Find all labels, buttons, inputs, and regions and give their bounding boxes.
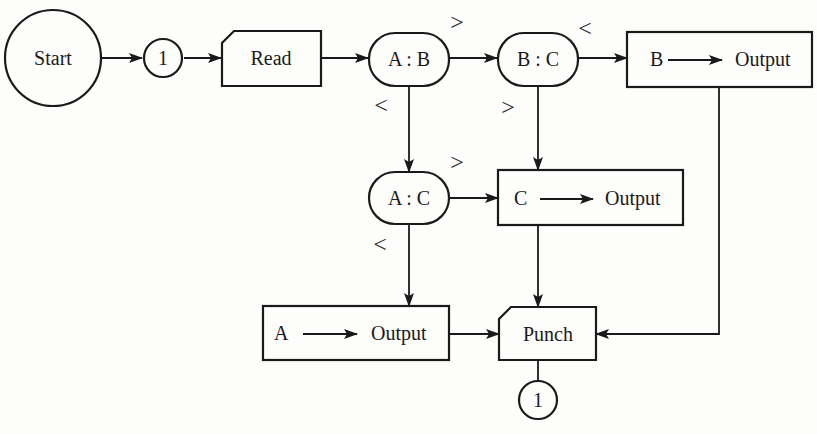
compare-bc-label: B : C — [517, 48, 559, 70]
connector-bottom-label: 1 — [533, 389, 543, 411]
output-b-var: B — [650, 48, 663, 70]
output-b-node: B Output — [627, 32, 812, 87]
flowchart: Start 1 Read A : B B : C B Output A : C … — [0, 0, 817, 434]
output-a-node: A Output — [263, 306, 449, 360]
output-c-node: C Output — [498, 170, 683, 225]
label-bc-gt: > — [501, 94, 515, 120]
output-b-label: Output — [735, 48, 791, 71]
label-ac-lt: < — [373, 231, 387, 257]
punch-label: Punch — [523, 323, 573, 345]
connector-top: 1 — [144, 39, 182, 77]
punch-node: Punch — [499, 307, 596, 360]
output-a-label: Output — [371, 322, 427, 345]
connector-top-label: 1 — [158, 47, 168, 69]
compare-ac-node: A : C — [369, 172, 449, 224]
start-label: Start — [34, 47, 72, 69]
output-a-var: A — [274, 322, 289, 344]
label-bc-lt: < — [578, 15, 592, 41]
output-c-var: C — [514, 187, 527, 209]
connector-bottom: 1 — [519, 381, 557, 419]
compare-ab-label: A : B — [388, 48, 430, 70]
label-ac-gt: > — [450, 149, 464, 175]
label-ab-lt: < — [374, 92, 388, 118]
read-node: Read — [222, 31, 321, 86]
compare-ab-node: A : B — [369, 33, 449, 86]
read-label: Read — [250, 47, 291, 69]
output-c-label: Output — [605, 187, 661, 210]
start-node: Start — [5, 10, 101, 106]
compare-ac-label: A : C — [388, 187, 430, 209]
compare-bc-node: B : C — [498, 33, 578, 86]
label-ab-gt: > — [450, 9, 464, 35]
